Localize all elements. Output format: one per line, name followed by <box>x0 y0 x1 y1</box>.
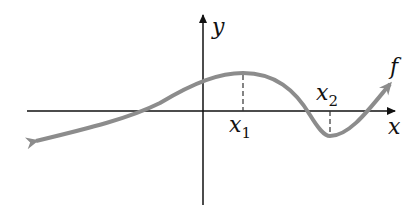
x1-subscript: 1 <box>241 124 251 142</box>
x-axis-label: x <box>388 116 400 138</box>
function-graph <box>0 0 420 212</box>
x1-base: x <box>229 112 241 137</box>
x2-label: x2 <box>316 82 338 104</box>
x1-label: x1 <box>229 114 251 136</box>
x2-subscript: 2 <box>328 92 338 110</box>
function-label: f <box>390 56 398 78</box>
x2-base: x <box>316 80 328 105</box>
y-axis-label: y <box>212 16 224 38</box>
